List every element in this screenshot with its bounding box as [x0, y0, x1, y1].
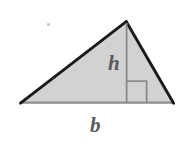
geometry-figure: h b — [0, 0, 188, 146]
base-label: b — [90, 115, 101, 136]
scan-speck-artifact — [47, 23, 50, 26]
height-label: h — [108, 53, 120, 74]
